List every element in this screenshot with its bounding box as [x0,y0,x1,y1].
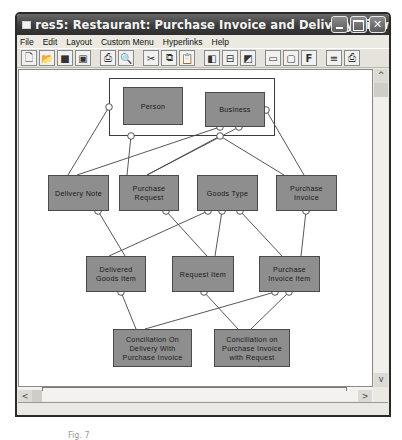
layout-right-icon[interactable]: ◩ [240,50,256,66]
toolbar: 🗋 📂 ■ ▣ ⎙ 🔍 ✂ ⧉ 📋 ◧ ⊟ ◩ ▭ ▢ F ≡ ⎙ [17,48,389,68]
copy-icon[interactable]: ⧉ [161,50,177,66]
node-purchase-invoice-item[interactable]: Purchase Invoice Item [259,256,320,292]
node-goods-type[interactable]: Goods Type [197,175,258,211]
view-a-icon[interactable]: ▭ [265,50,281,66]
layout-center-icon[interactable]: ⊟ [222,50,238,66]
menu-bar: File Edit Layout Custom Menu Hyperlinks … [17,35,389,48]
paste-icon[interactable]: 📋 [179,50,195,66]
print-preview-icon[interactable]: 🔍 [118,50,134,66]
horizontal-track-frame [42,387,347,391]
menu-layout[interactable]: Layout [66,37,92,47]
maximize-button[interactable] [350,16,367,33]
status-bar [18,402,388,415]
horizontal-scrollbar[interactable]: < > [18,387,373,401]
align-icon[interactable]: ≡ [326,50,342,66]
node-business[interactable]: Business [205,92,265,127]
diagram-canvas[interactable]: Person Business Delivery Note Purchase R… [18,69,373,387]
scroll-thumb-vertical[interactable] [374,83,388,97]
node-request-item[interactable]: Request Item [172,256,234,292]
printer-icon[interactable]: ⎙ [344,50,360,66]
node-purchase-invoice[interactable]: Purchase Invoice [276,175,337,211]
window-icon [22,21,31,29]
new-icon[interactable]: 🗋 [21,50,37,66]
node-delivery-note[interactable]: Delivery Note [48,175,109,211]
menu-hyperlinks[interactable]: Hyperlinks [163,37,203,47]
cut-icon[interactable]: ✂ [143,50,159,66]
node-conciliation-purchase[interactable]: Conciliation on Purchase Invoice with Re… [214,329,290,367]
view-b-icon[interactable]: ▢ [283,50,299,66]
node-purchase-request[interactable]: Purchase Request [119,175,179,211]
node-person[interactable]: Person [123,87,183,125]
scroll-down-button[interactable]: v [374,373,388,387]
title-bar[interactable]: res5: Restaurant: Purchase Invoice and D… [17,14,389,35]
print-icon[interactable]: ⎙ [100,50,116,66]
figure-caption: Fig. 7 [68,431,158,440]
app-window: res5: Restaurant: Purchase Invoice and D… [15,12,391,417]
save-all-icon[interactable]: ▣ [75,50,91,66]
font-icon[interactable]: F [301,50,317,66]
scroll-up-button[interactable]: ^ [374,69,388,83]
relationship-links [19,70,373,387]
close-button[interactable]: ✕ [369,16,386,33]
node-conciliation-delivery[interactable]: Conciliation On Delivery With Purchase I… [113,329,192,367]
menu-help[interactable]: Help [212,37,229,47]
menu-custom-menu[interactable]: Custom Menu [101,37,154,47]
save-icon[interactable]: ■ [57,50,73,66]
menu-edit[interactable]: Edit [43,37,58,47]
layout-left-icon[interactable]: ◧ [204,50,220,66]
node-delivered-goods-item[interactable]: Delivered Goods Item [86,256,146,292]
open-icon[interactable]: 📂 [39,50,55,66]
menu-file[interactable]: File [20,37,34,47]
minimize-button[interactable] [331,16,348,33]
vertical-scrollbar[interactable]: ^ v [374,69,388,387]
